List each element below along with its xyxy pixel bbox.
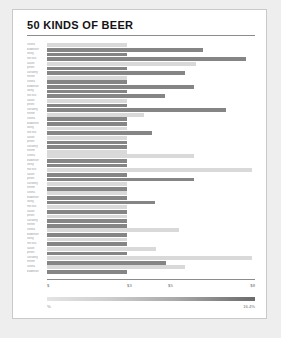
bar-track <box>47 62 255 66</box>
bar-track <box>47 71 255 75</box>
x-axis-ticks: $$3$5$8 <box>47 282 255 290</box>
bar <box>47 187 127 191</box>
bar-track <box>47 228 255 232</box>
bar-track <box>47 76 255 80</box>
bar <box>47 252 127 256</box>
bar <box>47 242 127 246</box>
bar-track <box>47 127 255 131</box>
bar-track <box>47 104 255 108</box>
x-axis-line <box>47 279 255 280</box>
bar <box>47 43 127 47</box>
bar-track <box>47 164 255 168</box>
bar <box>47 108 226 112</box>
bar <box>47 99 127 103</box>
bar-track <box>47 43 255 47</box>
bar <box>47 127 127 131</box>
bar-track <box>47 80 255 84</box>
bar-chart: coronabudweiservikingred rocksaisonperon… <box>27 43 255 278</box>
bar <box>47 104 127 108</box>
bar-track <box>47 215 255 219</box>
bar <box>47 76 127 80</box>
bar-track <box>47 265 255 269</box>
bar <box>47 136 127 140</box>
bar-track <box>47 182 255 186</box>
bar-track <box>47 201 255 205</box>
bar <box>47 141 127 145</box>
chart-row: budweiser <box>27 270 255 275</box>
bar-track <box>47 141 255 145</box>
bar <box>47 122 127 126</box>
bar-track <box>47 210 255 214</box>
bar <box>47 145 127 149</box>
bar <box>47 265 185 269</box>
bar-track <box>47 233 255 237</box>
bar <box>47 80 127 84</box>
bar <box>47 150 127 154</box>
bar-track <box>47 67 255 71</box>
bar-track <box>47 150 255 154</box>
bar <box>47 117 127 121</box>
axis-tick-label: $3 <box>127 282 132 290</box>
bar <box>47 201 155 205</box>
legend-labels: % 16.4% <box>47 303 255 311</box>
bar-track <box>47 252 255 256</box>
title-block: 50 KINDS OF BEER <box>27 19 255 36</box>
bar-track <box>47 205 255 209</box>
bar <box>47 196 127 200</box>
bar <box>47 238 127 242</box>
page-title: 50 KINDS OF BEER <box>27 19 255 31</box>
bar <box>47 131 152 135</box>
bar <box>47 71 185 75</box>
bar-track <box>47 261 255 265</box>
bar <box>47 113 144 117</box>
axis-tick-label: $5 <box>168 282 173 290</box>
bar-track <box>47 145 255 149</box>
bar-track <box>47 168 255 172</box>
bar <box>47 90 127 94</box>
bar <box>47 210 127 214</box>
bar-track <box>47 159 255 163</box>
bar-track <box>47 256 255 260</box>
bar-track <box>47 136 255 140</box>
bar <box>47 270 127 274</box>
bar-track <box>47 99 255 103</box>
bar <box>47 205 127 209</box>
bar <box>47 57 246 61</box>
bar <box>47 182 127 186</box>
bar <box>47 224 127 228</box>
bar-track <box>47 57 255 61</box>
bar-track <box>47 113 255 117</box>
axis-tick-label: $ <box>47 282 49 290</box>
bar <box>47 53 127 57</box>
bar <box>47 219 127 223</box>
bar <box>47 159 127 163</box>
bar-track <box>47 90 255 94</box>
bar <box>47 228 179 232</box>
bar <box>47 168 252 172</box>
axis-tick-label: $8 <box>250 282 255 290</box>
bar-track <box>47 196 255 200</box>
bar <box>47 62 196 66</box>
chart-card: 50 KINDS OF BEER coronabudweiservikingre… <box>12 9 267 319</box>
bar <box>47 164 127 168</box>
bar-track <box>47 238 255 242</box>
bar-track <box>47 85 255 89</box>
bar-track <box>47 173 255 177</box>
bar-track <box>47 117 255 121</box>
bar <box>47 85 194 89</box>
bar-track <box>47 122 255 126</box>
bar-track <box>47 53 255 57</box>
bar <box>47 178 194 182</box>
legend-gradient-bar <box>47 297 255 301</box>
bar-track <box>47 178 255 182</box>
title-divider <box>27 35 255 36</box>
bar-track <box>47 270 255 274</box>
bar-track <box>47 247 255 251</box>
legend-min-label: % <box>47 303 51 311</box>
bar <box>47 48 203 52</box>
bar <box>47 256 252 260</box>
bar-track <box>47 224 255 228</box>
bar-track <box>47 219 255 223</box>
bar-track <box>47 108 255 112</box>
bar <box>47 94 165 98</box>
